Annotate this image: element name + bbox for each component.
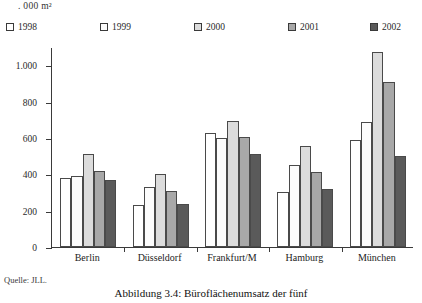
bar-d-sseldorf-2001 xyxy=(166,191,177,247)
y-axis-labels: 02004006008001.000 xyxy=(0,48,45,248)
bar-m-nchen-2002 xyxy=(395,156,406,247)
x-label-berlin: Berlin xyxy=(75,252,100,263)
figure-bueroflaechenumsatz: . 000 m² 19981999200020012002 0200400600… xyxy=(0,0,422,303)
legend-swatch-2000 xyxy=(194,23,202,31)
bar-hamburg-1998 xyxy=(277,192,288,247)
bar-group-berlin xyxy=(52,48,124,247)
legend-label-1998: 1998 xyxy=(18,22,37,32)
source-note: Quelle: JLL. xyxy=(4,275,47,285)
legend-item-2000: 2000 xyxy=(194,22,225,32)
bar-frankfurt-m-2000 xyxy=(227,121,238,247)
bar-berlin-2000 xyxy=(83,154,94,247)
legend-item-2001: 2001 xyxy=(288,22,319,32)
legend-swatch-2002 xyxy=(370,23,378,31)
figure-caption: Abbildung 3.4: Büroflächenumsatz der fün… xyxy=(0,287,422,299)
y-tick-label-1000: 1.000 xyxy=(0,61,37,71)
bar-berlin-1998 xyxy=(60,178,71,247)
bar-d-sseldorf-1998 xyxy=(133,205,144,247)
y-tick-label-0: 0 xyxy=(0,243,37,253)
bar-d-sseldorf-1999 xyxy=(144,187,155,247)
bar-frankfurt-m-2001 xyxy=(239,137,250,247)
y-tick-label-200: 200 xyxy=(0,207,37,217)
legend-label-2002: 2002 xyxy=(382,22,401,32)
bar-d-sseldorf-2002 xyxy=(177,204,188,247)
legend-label-2001: 2001 xyxy=(300,22,319,32)
plot-area xyxy=(51,48,413,248)
bar-d-sseldorf-2000 xyxy=(155,174,166,247)
bar-hamburg-2001 xyxy=(311,172,322,247)
y-axis-unit-label: . 000 m² xyxy=(18,1,52,11)
bar-m-nchen-1999 xyxy=(361,122,372,247)
bar-group-d-sseldorf xyxy=(124,48,196,247)
bar-berlin-1999 xyxy=(71,176,82,247)
y-tick-0 xyxy=(46,248,52,249)
bar-m-nchen-1998 xyxy=(350,140,361,247)
legend-item-1998: 1998 xyxy=(6,22,37,32)
x-label-hamburg: Hamburg xyxy=(286,252,324,263)
bar-frankfurt-m-1998 xyxy=(205,133,216,247)
bar-group-frankfurt-m xyxy=(197,48,269,247)
legend-item-1999: 1999 xyxy=(100,22,131,32)
bar-hamburg-2000 xyxy=(300,146,311,247)
bar-m-nchen-2000 xyxy=(372,52,383,247)
legend-item-2002: 2002 xyxy=(370,22,401,32)
legend-label-2000: 2000 xyxy=(206,22,225,32)
legend-label-1999: 1999 xyxy=(112,22,131,32)
y-tick-label-600: 600 xyxy=(0,134,37,144)
legend-swatch-2001 xyxy=(288,23,296,31)
bar-hamburg-1999 xyxy=(289,165,300,247)
x-label-m-nchen: München xyxy=(358,252,396,263)
bar-group-m-nchen xyxy=(342,48,414,247)
bar-hamburg-2002 xyxy=(322,189,333,247)
y-tick-label-400: 400 xyxy=(0,170,37,180)
bar-berlin-2002 xyxy=(105,180,116,247)
x-label-frankfurt-m: Frankfurt/M xyxy=(207,252,256,263)
x-axis-labels: BerlinDüsseldorfFrankfurt/MHamburgMünche… xyxy=(51,252,413,268)
chart-legend: 19981999200020012002 xyxy=(0,22,422,37)
bar-group-hamburg xyxy=(269,48,341,247)
bar-berlin-2001 xyxy=(94,171,105,247)
bar-frankfurt-m-1999 xyxy=(216,138,227,247)
legend-swatch-1998 xyxy=(6,23,14,31)
legend-swatch-1999 xyxy=(100,23,108,31)
y-tick-label-800: 800 xyxy=(0,98,37,108)
x-label-d-sseldorf: Düsseldorf xyxy=(138,252,182,263)
bar-m-nchen-2001 xyxy=(383,82,394,247)
bar-frankfurt-m-2002 xyxy=(250,154,261,247)
